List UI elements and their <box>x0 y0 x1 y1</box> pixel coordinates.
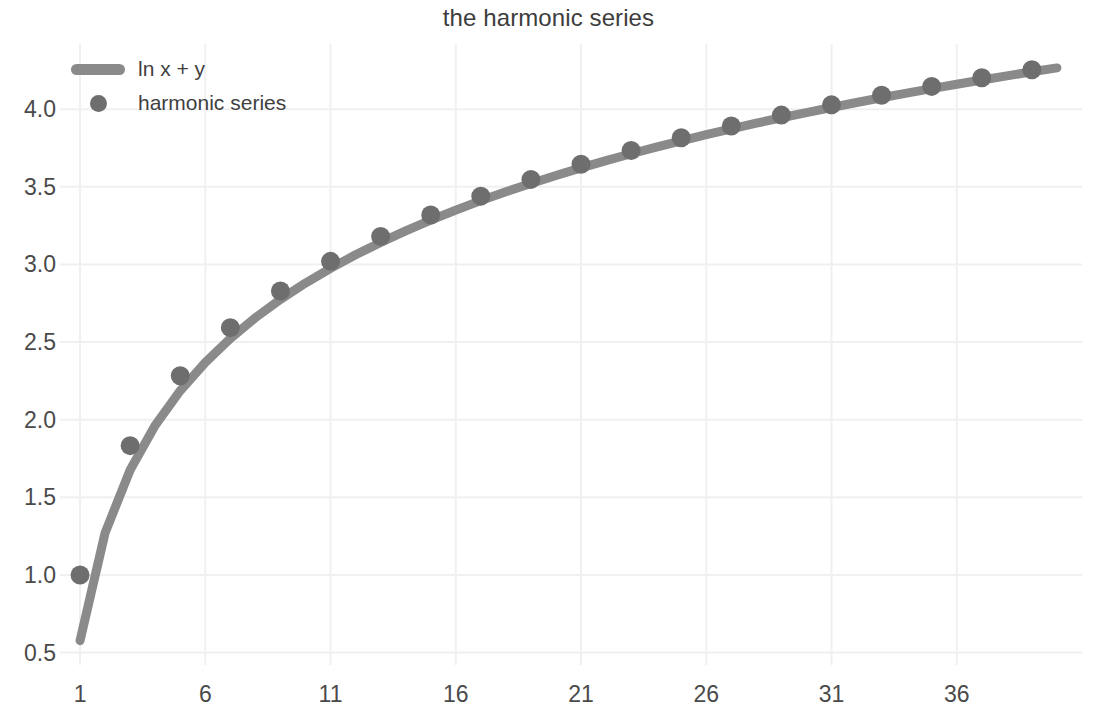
data-point <box>471 187 490 206</box>
data-point <box>321 252 340 271</box>
data-point <box>421 206 440 225</box>
data-point <box>872 86 891 105</box>
chart-legend: ln x + y harmonic series <box>62 52 352 120</box>
x-tick-label: 16 <box>426 681 486 708</box>
y-tick-label: 0.5 <box>0 639 56 666</box>
y-tick-label: 3.0 <box>0 251 56 278</box>
data-point <box>722 116 741 135</box>
data-point <box>772 106 791 125</box>
y-tick-label: 2.5 <box>0 329 56 356</box>
data-point <box>521 170 540 189</box>
data-point <box>922 77 941 96</box>
x-tick-label: 11 <box>301 681 361 708</box>
y-tick-label: 4.0 <box>0 96 56 123</box>
legend-item-scatter[interactable]: harmonic series <box>62 86 352 120</box>
data-point <box>1022 60 1041 79</box>
x-tick-label: 6 <box>175 681 235 708</box>
legend-label-line: ln x + y <box>134 57 205 81</box>
data-point <box>171 366 190 385</box>
legend-item-line[interactable]: ln x + y <box>62 52 352 86</box>
x-tick-label: 1 <box>50 681 110 708</box>
series-line-ln-x-plus-gamma <box>80 68 1057 641</box>
data-point <box>672 128 691 147</box>
chart-figure: the harmonic series 0.51.01.52.02.53.03.… <box>0 0 1097 710</box>
legend-line-swatch-icon <box>62 64 134 75</box>
data-point <box>822 95 841 114</box>
series-layer <box>71 60 1057 640</box>
legend-dot-swatch-icon <box>62 95 134 112</box>
data-point <box>572 155 591 174</box>
data-point <box>71 565 90 584</box>
y-tick-label: 2.0 <box>0 406 56 433</box>
data-point <box>221 318 240 337</box>
data-point <box>972 68 991 87</box>
x-tick-label: 21 <box>551 681 611 708</box>
data-point <box>121 436 140 455</box>
x-tick-label: 31 <box>802 681 862 708</box>
data-point <box>271 282 290 301</box>
data-point <box>622 141 641 160</box>
y-tick-label: 3.5 <box>0 173 56 200</box>
y-tick-label: 1.5 <box>0 484 56 511</box>
data-point <box>371 227 390 246</box>
x-tick-label: 26 <box>676 681 736 708</box>
y-tick-label: 1.0 <box>0 561 56 588</box>
x-tick-label: 36 <box>927 681 987 708</box>
legend-label-scatter: harmonic series <box>134 91 286 115</box>
